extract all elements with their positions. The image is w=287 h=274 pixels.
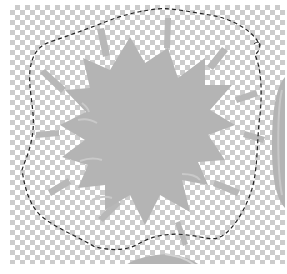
- artwork: [10, 5, 285, 264]
- image-canvas[interactable]: [10, 5, 285, 264]
